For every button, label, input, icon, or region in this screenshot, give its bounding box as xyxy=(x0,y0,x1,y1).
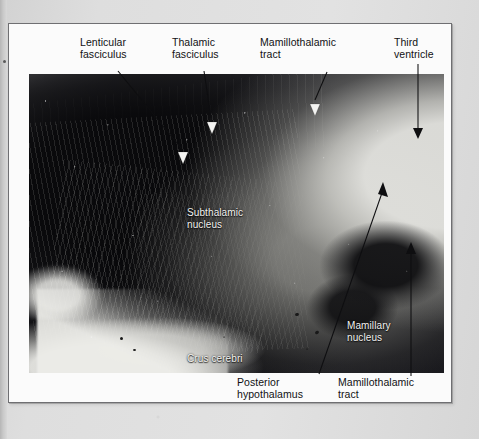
page-gutter-shadow xyxy=(0,0,7,439)
photomicrograph-image: Subthalamic nucleus Crus cerebri Mamilla… xyxy=(29,74,444,373)
label-lenticular-fasciculus: Lenticular fasciculus xyxy=(80,36,127,60)
label-thalamic-fasciculus: Thalamic fasciculus xyxy=(172,36,219,60)
label-third-ventricle: Third ventricle xyxy=(394,36,434,60)
label-mamillothalamic-tract-bottom: Mamillothalamic tract xyxy=(338,376,414,400)
label-posterior-hypothalamus: Posterior hypothalamus xyxy=(237,376,303,400)
arrowhead-lenticular-fasciculus xyxy=(178,152,188,164)
arrowhead-thalamic-fasciculus xyxy=(207,122,217,134)
figure-frame: Subthalamic nucleus Crus cerebri Mamilla… xyxy=(8,23,452,403)
arrowhead-mamillothalamic-tract-top xyxy=(310,104,320,116)
page-margin-mark xyxy=(3,60,6,63)
label-mamillothalamic-tract-top: Mamillothalamic tract xyxy=(260,36,336,60)
white-arrowheads-layer xyxy=(29,74,444,373)
